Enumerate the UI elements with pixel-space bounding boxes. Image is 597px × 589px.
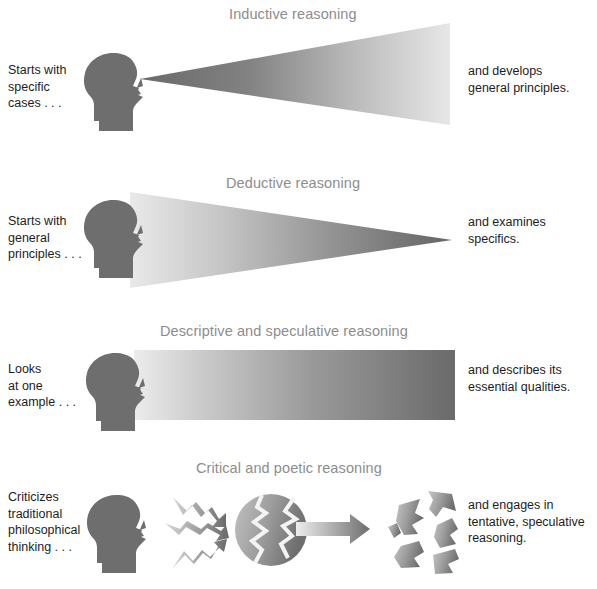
shattered-sphere-icon xyxy=(388,491,459,574)
head-silhouette-icon xyxy=(87,495,146,573)
zigzag-arrow-lower-icon xyxy=(172,539,227,569)
head-silhouette-icon xyxy=(84,53,143,131)
transition-arrow-icon xyxy=(296,514,370,544)
inductive-triangle-shape xyxy=(140,23,450,125)
artwork-deductive xyxy=(0,160,597,310)
zigzag-arrow-upper-icon xyxy=(173,497,226,527)
reasoning-modes-figure: Inductive reasoning Starts with specific… xyxy=(0,0,597,589)
panel-critical-poetic: Critical and poetic reasoning Criticizes… xyxy=(0,455,597,589)
artwork-inductive xyxy=(0,0,597,150)
panel-inductive: Inductive reasoning Starts with specific… xyxy=(0,0,597,150)
panel-deductive: Deductive reasoning Starts with general … xyxy=(0,160,597,310)
artwork-critical-poetic xyxy=(0,455,597,589)
artwork-descriptive-speculative xyxy=(0,310,597,455)
descriptive-band-shape xyxy=(134,350,455,420)
panel-descriptive-speculative: Descriptive and speculative reasoning Lo… xyxy=(0,310,597,455)
deductive-triangle-shape xyxy=(130,192,452,288)
